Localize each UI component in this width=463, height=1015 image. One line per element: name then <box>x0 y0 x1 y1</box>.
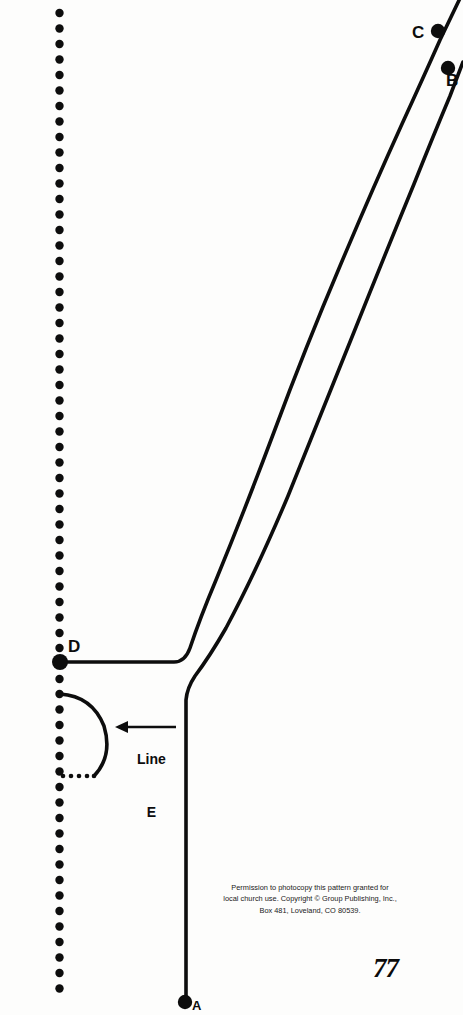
point-d-dot <box>52 654 68 670</box>
point-c-dot <box>431 24 445 38</box>
point-label-c: C <box>412 24 424 41</box>
line-e-arc <box>60 694 107 776</box>
point-label-a: A <box>192 999 201 1012</box>
line-e-dotted-base <box>61 774 97 779</box>
page-number: 77 <box>373 953 398 984</box>
fold-line-dotted <box>55 9 63 993</box>
line-e-caption: Line E <box>137 716 166 856</box>
pattern-drawing <box>0 0 463 1015</box>
point-label-d: D <box>68 638 80 655</box>
point-a-dot <box>178 995 192 1009</box>
pattern-page: C B D A Line E Permission to photocopy t… <box>0 0 463 1015</box>
point-label-b: B <box>446 72 458 89</box>
outer-cut-line <box>60 0 463 662</box>
inner-cut-line <box>186 62 463 1002</box>
line-e-letter: E <box>137 804 166 822</box>
line-e-word: Line <box>137 751 166 769</box>
copyright-notice: Permission to photocopy this pattern gra… <box>185 882 435 916</box>
